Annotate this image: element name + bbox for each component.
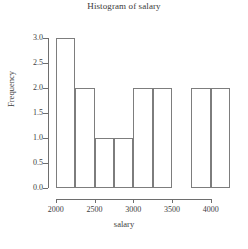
y-tick-label: 0.5: [21, 159, 43, 167]
histogram-bar: [191, 88, 210, 188]
x-tick-label: 2000: [36, 205, 76, 214]
x-tick-mark: [133, 199, 134, 203]
y-tick-label: 0.0: [21, 184, 43, 192]
y-tick-mark: [43, 38, 48, 39]
chart-title: Histogram of salary: [0, 1, 248, 11]
y-tick-label: 2.0: [21, 84, 43, 92]
histogram-bar: [95, 138, 114, 188]
plot-area: [52, 30, 234, 188]
y-tick-label: 1.5: [21, 109, 43, 117]
x-tick-label: 3500: [152, 205, 192, 214]
x-tick-mark: [172, 199, 173, 203]
y-axis-title: Frequency: [6, 59, 16, 119]
x-tick-mark: [56, 199, 57, 203]
y-tick-mark: [43, 138, 48, 139]
x-tick-mark: [211, 199, 212, 203]
histogram-bar: [114, 138, 133, 188]
histogram-bar: [211, 88, 230, 188]
y-tick-label: 1.0: [21, 134, 43, 142]
x-tick-mark: [95, 199, 96, 203]
histogram-bar: [153, 88, 172, 188]
y-tick-label: 3.0: [21, 34, 43, 42]
y-axis-line: [48, 38, 49, 188]
histogram-figure: Histogram of salary 0.00.51.01.52.02.53.…: [0, 0, 248, 249]
y-tick-mark: [43, 188, 48, 189]
y-tick-label: 2.5: [21, 59, 43, 67]
x-tick-label: 3000: [113, 205, 153, 214]
x-tick-label: 4000: [191, 205, 231, 214]
y-tick-mark: [43, 163, 48, 164]
y-tick-mark: [43, 63, 48, 64]
x-axis-title: salary: [0, 219, 248, 229]
histogram-bar: [56, 38, 75, 188]
histogram-bar: [133, 88, 152, 188]
y-tick-mark: [43, 88, 48, 89]
x-tick-label: 2500: [75, 205, 115, 214]
y-tick-mark: [43, 113, 48, 114]
histogram-bar: [75, 88, 94, 188]
